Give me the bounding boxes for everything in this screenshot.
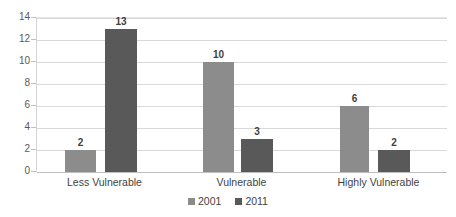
bar-value-label: 3 <box>236 127 278 137</box>
y-axis-tick-label: 12 <box>2 34 30 44</box>
y-axis-tick-label: 2 <box>2 144 30 154</box>
bar-chart: 14 12 10 8 6 4 2 0 2 13 10 3 6 2 <box>0 0 456 217</box>
bar-group-vulnerable: 10 3 <box>173 17 310 172</box>
x-axis-labels: Less Vulnerable Vulnerable Highly Vulner… <box>36 176 447 192</box>
bar-2001-less-vulnerable[interactable] <box>65 150 96 172</box>
y-axis-tick-label: 10 <box>2 56 30 66</box>
bar-2011-highly-vulnerable[interactable] <box>378 150 410 172</box>
y-axis-tick-label: 0 <box>2 166 30 176</box>
x-axis-category-label-highly-vulnerable: Highly Vulnerable <box>310 176 447 189</box>
legend-item-2001[interactable]: 2001 <box>188 196 221 207</box>
bar-group-highly-vulnerable: 6 2 <box>310 17 447 172</box>
x-axis-category-label-less-vulnerable: Less Vulnerable <box>36 176 173 189</box>
y-axis-tick-label: 8 <box>2 78 30 88</box>
legend-swatch-icon <box>235 198 242 205</box>
legend-item-2011[interactable]: 2011 <box>235 196 268 207</box>
y-axis-tick-label: 14 <box>2 12 30 22</box>
gridline-0 <box>37 172 447 173</box>
bar-2001-vulnerable[interactable] <box>203 62 234 172</box>
bar-value-label: 2 <box>60 138 101 148</box>
bar-2011-less-vulnerable[interactable] <box>105 29 137 172</box>
bar-group-less-vulnerable: 2 13 <box>36 17 173 172</box>
y-axis-tick-label: 4 <box>2 122 30 132</box>
bar-value-label: 13 <box>100 17 142 27</box>
legend-swatch-icon <box>188 198 195 205</box>
bar-value-label: 2 <box>373 138 415 148</box>
bar-2011-vulnerable[interactable] <box>241 139 273 172</box>
legend-label: 2001 <box>198 196 221 207</box>
y-axis-tick-label: 6 <box>2 100 30 110</box>
chart-legend: 2001 2011 <box>0 196 456 207</box>
bar-groups: 2 13 10 3 6 2 <box>36 17 447 172</box>
bar-value-label: 10 <box>198 50 239 60</box>
x-axis-category-label-vulnerable: Vulnerable <box>173 176 310 189</box>
legend-label: 2011 <box>245 196 268 207</box>
bar-value-label: 6 <box>334 94 375 104</box>
bar-2001-highly-vulnerable[interactable] <box>340 106 369 172</box>
